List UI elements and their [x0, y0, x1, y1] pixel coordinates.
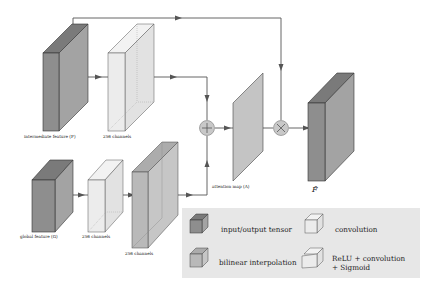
legend-label-sigmoid: + Sigmoid	[332, 263, 371, 272]
label-interp: 256 channels	[125, 251, 153, 256]
label-output: F̂	[311, 185, 318, 194]
swatch-front	[302, 254, 317, 268]
output-tensor	[308, 73, 354, 181]
arrow-g-to-conv	[78, 193, 85, 198]
tensor-front	[88, 180, 105, 232]
legend: input/output tensor convolution bilinear…	[182, 208, 420, 278]
legend-background	[182, 208, 420, 278]
multiply-operator	[274, 121, 289, 136]
conv-top-tensor	[108, 24, 154, 131]
legend-label-interpolation: bilinear interpolation	[219, 258, 297, 267]
attention-plane	[233, 73, 263, 181]
conv-bottom-tensor	[88, 160, 123, 232]
interp-tensor	[132, 142, 178, 248]
legend-label-relu-conv: ReLU + convolution	[332, 254, 406, 263]
swatch-front	[305, 220, 317, 233]
attention-module-diagram: intermediate feature (F) 256 channels gl…	[0, 0, 431, 291]
swatch-front	[190, 220, 202, 233]
add-operator	[200, 121, 215, 136]
label-conv-bottom: 256 channels	[82, 234, 110, 239]
label-intermediate-feature: intermediate feature (F)	[24, 134, 76, 139]
arrow-into-add-bottom	[205, 160, 210, 167]
tensor-front	[132, 172, 148, 248]
legend-label-io-tensor: input/output tensor	[221, 225, 293, 234]
tensor-front	[308, 103, 325, 181]
label-conv-top: 256 channels	[103, 134, 131, 139]
arrow-add-to-attn	[224, 126, 231, 131]
label-attention-map: attention map (A)	[212, 184, 250, 189]
tensor-front	[43, 53, 59, 131]
arrow-skip-down	[279, 64, 284, 71]
swatch-front	[190, 254, 202, 267]
arrow-conv-right	[170, 75, 177, 80]
intermediate-feature-tensor	[43, 24, 88, 131]
label-global-feature: global feature (G)	[20, 234, 58, 239]
attention-map	[233, 73, 263, 181]
tensor-front	[32, 180, 55, 232]
arrow-skip-right	[175, 16, 182, 21]
global-feature-tensor	[32, 160, 73, 232]
tensor-front	[108, 53, 125, 131]
arrow-interp-right	[186, 193, 193, 198]
arrow-into-add-top	[205, 95, 210, 102]
arrow-f-to-conv	[95, 75, 102, 80]
legend-label-convolution: convolution	[335, 225, 378, 234]
